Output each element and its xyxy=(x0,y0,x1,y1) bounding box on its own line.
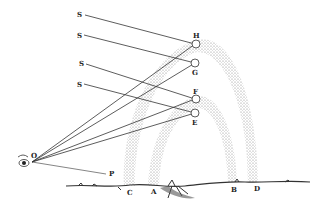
sun-ray-label-3: S xyxy=(79,60,84,67)
horizon-label-p: P xyxy=(109,170,114,177)
rainbow-diagram: S S S S H G F E O P C A B D xyxy=(0,0,335,211)
diagram-canvas xyxy=(0,0,335,211)
sun-ray-label-1: S xyxy=(77,11,82,18)
droplet-e xyxy=(191,109,199,117)
sight-line-h xyxy=(32,44,195,162)
sight-line-e xyxy=(32,113,195,162)
droplet-label-h: H xyxy=(193,32,200,39)
eye-label-o: O xyxy=(31,152,37,159)
ground xyxy=(66,179,310,198)
sight-line-g xyxy=(32,63,195,162)
eye-icon xyxy=(18,155,29,167)
droplet-f xyxy=(192,95,200,103)
sun-ray-f xyxy=(86,64,195,99)
sun-ray-label-4: S xyxy=(77,81,82,88)
ground-label-a: A xyxy=(151,188,156,195)
ground-label-b: B xyxy=(231,186,237,193)
sun-rays xyxy=(84,15,195,113)
droplet-label-e: E xyxy=(192,119,197,126)
droplet-label-g: G xyxy=(192,69,198,76)
sun-ray-label-2: S xyxy=(77,32,82,39)
droplet-label-f: F xyxy=(193,88,198,95)
ground-label-c: C xyxy=(127,189,133,196)
droplet-g xyxy=(191,59,199,67)
droplet-h xyxy=(192,40,200,48)
horizon-line-op xyxy=(32,162,106,174)
ground-label-d: D xyxy=(254,185,260,192)
